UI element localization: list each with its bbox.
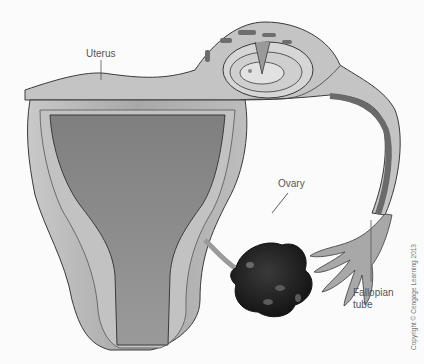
label-fallopian-line1: Fallopian xyxy=(353,287,394,298)
ovary-leader-line xyxy=(272,193,288,213)
ovary xyxy=(231,243,312,317)
reproductive-anatomy-diagram: Uterus Ovary Fallopian tube Copyright © … xyxy=(0,0,424,364)
copyright-notice: Copyright © Cengage Learning 2013 xyxy=(410,244,417,350)
label-ovary: Ovary xyxy=(278,178,305,189)
ovarian-ligament xyxy=(205,240,238,270)
uterine-body xyxy=(28,100,247,350)
label-fallopian-line2: tube xyxy=(353,299,372,310)
label-uterus: Uterus xyxy=(86,48,115,59)
